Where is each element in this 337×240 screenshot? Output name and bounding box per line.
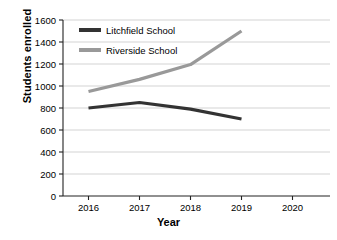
- legend-label: Litchfield School: [106, 25, 175, 36]
- chart-legend: Litchfield SchoolRiverside School: [79, 23, 177, 57]
- legend-swatch-icon: [79, 48, 101, 52]
- legend-item[interactable]: Riverside School: [79, 43, 177, 57]
- line-chart: Students enrolled Year 02004006008001000…: [0, 0, 337, 240]
- legend-swatch-icon: [79, 28, 101, 32]
- series-line: [89, 103, 242, 120]
- legend-label: Riverside School: [106, 45, 177, 56]
- legend-item[interactable]: Litchfield School: [79, 23, 177, 37]
